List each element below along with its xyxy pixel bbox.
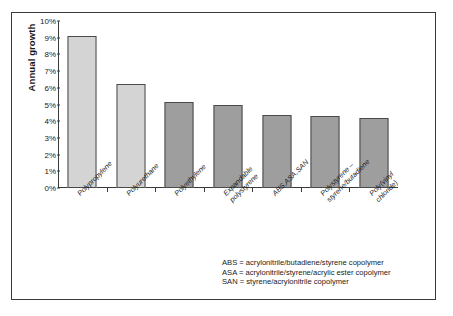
x-axis-label-slot: Polystyrene –styrene/butadiene [301, 190, 350, 256]
y-axis-tick-label: 0% [44, 184, 56, 193]
x-axis-label-slot: Polyethylene [155, 190, 204, 256]
y-axis-tick-label: 7% [44, 67, 56, 76]
chart-figure: Annual growth 10%9%8%7%6%5%4%3%2%1%0% Po… [0, 0, 453, 316]
y-axis-tick-label: 8% [44, 50, 56, 59]
y-axis-tick-label: 5% [44, 100, 56, 109]
y-axis-tick-label: 9% [44, 33, 56, 42]
y-axis-tick-label: 10% [40, 17, 56, 26]
x-axis-label-slot: Expandablepolystyrene [204, 190, 253, 256]
legend-line: ABS = acrylonitrile/butadiene/styrene co… [222, 258, 391, 268]
x-axis-label-slot: Poly(vinylchloride) [349, 190, 398, 256]
y-axis-tick-label: 1% [44, 167, 56, 176]
x-axis-category-labels: PolypropylenePolyurethanePolyethyleneExp… [58, 190, 398, 256]
x-axis-label-slot: Polypropylene [58, 190, 107, 256]
legend-line: ASA = acrylonitrile/styrene/acrylic este… [222, 268, 391, 278]
y-axis-tick-label: 6% [44, 83, 56, 92]
bar-slot [155, 21, 204, 188]
bar-slot [252, 21, 301, 188]
legend-line: SAN = styrene/acrylonitrile copolymer [222, 277, 391, 287]
y-axis-tick-label: 3% [44, 133, 56, 142]
bar-slot [204, 21, 253, 188]
x-axis-label-slot: Polyurethane [107, 190, 156, 256]
bar-slot [107, 21, 156, 188]
y-axis-tick-label: 4% [44, 117, 56, 126]
y-axis-tick-label: 2% [44, 150, 56, 159]
y-axis-tick-labels: 10%9%8%7%6%5%4%3%2%1%0% [32, 21, 56, 188]
bar [116, 84, 145, 188]
bar-slot [58, 21, 107, 188]
x-axis-label-slot: ABS,ASA,SAN [252, 190, 301, 256]
bar [68, 36, 97, 188]
legend-abbreviations: ABS = acrylonitrile/butadiene/styrene co… [222, 258, 391, 287]
